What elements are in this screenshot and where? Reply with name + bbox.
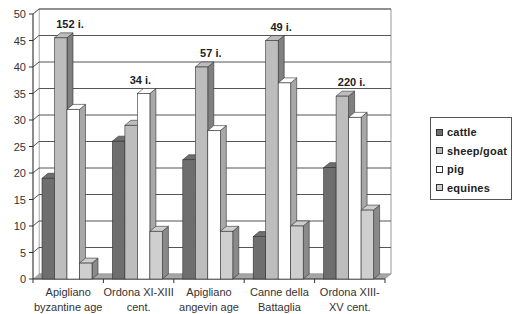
bar-side [374, 205, 380, 279]
bar-pig [349, 117, 362, 279]
y-tick-label: 25 [14, 141, 26, 153]
bar-side [162, 226, 168, 279]
bar-pig [278, 83, 291, 279]
y-tick-label: 0 [20, 273, 26, 285]
bar-side [80, 104, 86, 279]
y-tick-label: 50 [14, 8, 26, 20]
y-tick-label: 20 [14, 167, 26, 179]
legend-label: sheep/goat [447, 145, 507, 157]
legend-swatch-sheep-goat [436, 147, 443, 154]
y-tick-label: 40 [14, 61, 26, 73]
legend-item-cattle: cattle [436, 123, 511, 142]
bar-cattle [324, 168, 337, 279]
bar-side [303, 221, 309, 279]
y-tick-label: 15 [14, 194, 26, 206]
y-tick-label: 45 [14, 35, 26, 47]
bar-equines [80, 263, 93, 279]
category-label: Apigliano [46, 286, 91, 298]
bar-cattle [42, 178, 55, 279]
legend-item-sheep-goat: sheep/goat [436, 142, 511, 161]
category-label: Apigliano [186, 286, 231, 298]
category-label: Ordona XI-XIII [103, 286, 173, 298]
legend: cattle sheep/goat pig equines [430, 117, 512, 200]
y-tick-label: 10 [14, 220, 26, 232]
bar-sheep-goat [336, 96, 349, 279]
bar-pig [137, 94, 150, 280]
bar-side [233, 226, 239, 279]
category-label: angevin age [179, 301, 239, 313]
category-label: Canne della [250, 286, 310, 298]
bar-sheep-goat [125, 125, 137, 279]
group-annotation: 34 i. [130, 74, 151, 86]
category-label: byzantine age [34, 301, 103, 313]
legend-item-equines: equines [436, 179, 511, 198]
bar-sheep-goat [195, 67, 208, 279]
bar-sheep-goat [266, 41, 279, 280]
y-tick-label: 35 [14, 88, 26, 100]
bar-sheep-goat [55, 38, 68, 279]
category-label: Battaglia [258, 301, 302, 313]
group-annotation: 49 i. [270, 21, 291, 33]
group-annotation: 57 i. [200, 47, 221, 59]
legend-label: equines [447, 182, 490, 194]
bar-equines [220, 231, 233, 279]
category-label: cent. [127, 301, 151, 313]
group-annotation: 152 i. [56, 18, 84, 30]
bar-pig [67, 109, 80, 279]
legend-swatch-equines [436, 184, 443, 191]
legend-label: cattle [447, 126, 477, 138]
legend-label: pig [447, 163, 464, 175]
bar-cattle [253, 237, 266, 279]
bar-equines [361, 210, 374, 279]
legend-swatch-cattle [436, 129, 443, 136]
category-label: Ordona XIII- [320, 286, 380, 298]
y-tick-label: 5 [20, 247, 26, 259]
bar-cattle [112, 141, 125, 279]
y-tick-label: 30 [14, 114, 26, 126]
bar-equines [150, 231, 163, 279]
bar-cattle [183, 160, 196, 279]
bar-pig [208, 131, 221, 279]
bar-equines [291, 226, 304, 279]
legend-swatch-pig [436, 166, 443, 173]
category-label: XV cent. [329, 301, 371, 313]
legend-item-pig: pig [436, 160, 511, 179]
group-annotation: 220 i. [338, 76, 366, 88]
